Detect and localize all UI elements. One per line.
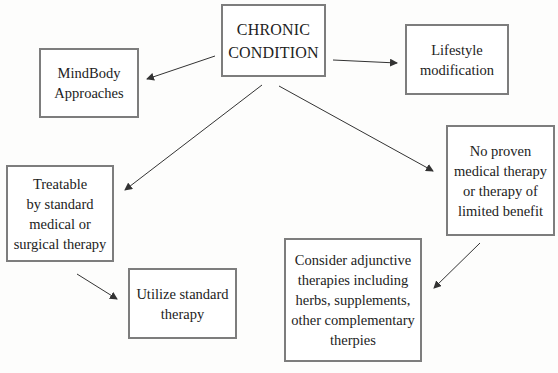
node-text-line: medical therapy (454, 161, 547, 181)
edge-chronic-to-lifestyle (333, 60, 397, 63)
node-text-line: limited benefit (454, 201, 547, 221)
node-text-line: Approaches (54, 83, 123, 103)
diagram-canvas: CHRONIC CONDITION MindBody Approaches Li… (0, 0, 558, 373)
node-text-line: modification (420, 60, 494, 80)
node-text-line: MindBody (54, 63, 123, 83)
node-consider-adjunctive-therapies: Consider adjunctive therapies including … (284, 238, 422, 362)
node-no-proven-therapy: No proven medical therapy or therapy of … (446, 125, 555, 236)
node-chronic-condition: CHRONIC CONDITION (221, 4, 326, 77)
node-text-line: medical or (14, 214, 107, 234)
node-lifestyle-modification: Lifestyle modification (405, 24, 509, 95)
node-text-line: CHRONIC (228, 18, 319, 41)
edge-chronic-to-mindbody (147, 56, 215, 79)
edge-noproven-to-consider (434, 243, 480, 288)
node-text-line: Treatable (14, 174, 107, 194)
edge-treatable-to-utilize (77, 274, 117, 299)
edge-chronic-to-treatable (125, 85, 262, 190)
node-text-line: herbs, supplements, (291, 290, 415, 310)
node-text-line: by standard (14, 194, 107, 214)
node-text-line: CONDITION (228, 41, 319, 64)
node-text-line: No proven (454, 141, 547, 161)
node-text-line: therpies (291, 330, 415, 350)
node-text-line: therapy (136, 304, 228, 324)
node-text-line: Lifestyle (420, 40, 494, 60)
node-mindbody-approaches: MindBody Approaches (39, 48, 139, 118)
node-text-line: Utilize standard (136, 284, 228, 304)
node-text-line: other complementary (291, 310, 415, 330)
edge-chronic-to-noproven (279, 86, 433, 171)
node-text-line: or therapy of (454, 181, 547, 201)
node-utilize-standard-therapy: Utilize standard therapy (128, 268, 237, 339)
node-treatable-standard-therapy: Treatable by standard medical or surgica… (6, 165, 114, 262)
node-text-line: surgical therapy (14, 234, 107, 254)
node-text-line: Consider adjunctive (291, 250, 415, 270)
node-text-line: therapies including (291, 270, 415, 290)
